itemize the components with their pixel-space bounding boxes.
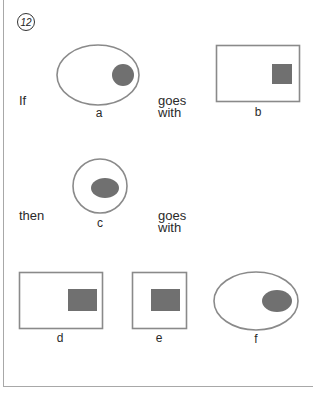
figure-b <box>217 46 300 102</box>
figure-c <box>73 159 127 213</box>
option-e-inner-rectangle <box>151 289 180 311</box>
option-d-label: d <box>50 332 70 344</box>
option-e-label: e <box>149 332 169 344</box>
figure-a <box>57 45 139 105</box>
if-label: If <box>19 95 26 107</box>
option-d[interactable] <box>20 273 103 329</box>
option-d-inner-rectangle <box>68 289 97 311</box>
relation-2-text: goes with <box>158 210 186 234</box>
option-e[interactable] <box>133 273 187 329</box>
then-label: then <box>19 210 44 222</box>
figure-a-label: a <box>89 107 109 119</box>
relation-1-line-2: with <box>158 107 186 119</box>
option-f-inner-ellipse <box>262 290 292 312</box>
figure-a-inner-circle <box>112 64 134 86</box>
figure-b-label: b <box>248 106 268 118</box>
option-f-label: f <box>246 333 266 345</box>
figure-c-label: c <box>90 217 110 229</box>
relation-1-text: goes with <box>158 95 186 119</box>
option-f[interactable] <box>214 272 298 330</box>
figure-c-inner-ellipse <box>91 178 119 198</box>
relation-2-line-2: with <box>158 222 186 234</box>
figure-b-inner-square <box>272 64 292 84</box>
